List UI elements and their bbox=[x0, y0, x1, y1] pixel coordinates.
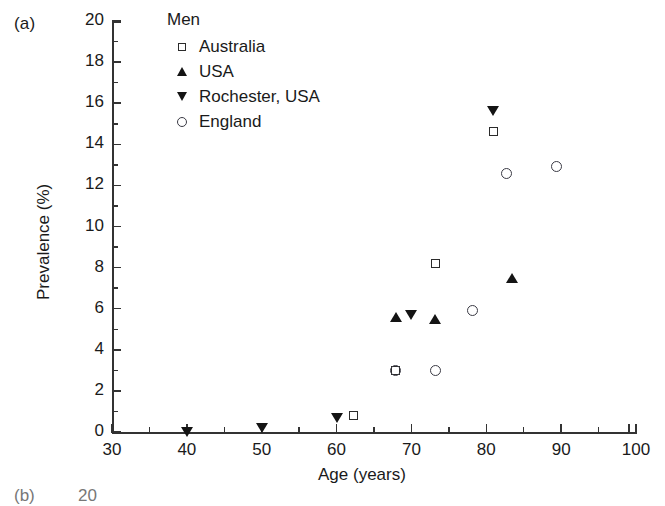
y-tick-minor bbox=[112, 82, 118, 84]
data-point-england bbox=[430, 365, 441, 376]
legend: Men AustraliaUSARochester, USAEngland bbox=[165, 10, 320, 134]
x-tick-major bbox=[486, 424, 488, 433]
x-tick-label: 60 bbox=[312, 440, 362, 460]
x-tick-major bbox=[635, 424, 637, 433]
data-point-rochester-usa bbox=[331, 413, 343, 423]
triangle-up-filled-icon bbox=[177, 67, 187, 76]
data-point-rochester-usa bbox=[181, 427, 193, 437]
x-tick-minor bbox=[523, 427, 525, 433]
legend-item: Rochester, USA bbox=[165, 84, 320, 109]
x-tick-label: 70 bbox=[386, 440, 436, 460]
y-tick-major bbox=[112, 185, 121, 187]
data-point-rochester-usa bbox=[256, 423, 268, 433]
square-open-icon bbox=[178, 43, 186, 51]
y-tick-label: 8 bbox=[64, 257, 104, 277]
panel-label: (a) bbox=[14, 14, 35, 34]
legend-marker-square-open-icon bbox=[165, 43, 199, 51]
x-axis-right-cap bbox=[628, 424, 630, 433]
y-tick-major bbox=[112, 20, 121, 22]
legend-item-label: Rochester, USA bbox=[199, 87, 320, 107]
y-tick-minor bbox=[112, 411, 118, 413]
data-point-rochester-usa bbox=[405, 310, 417, 320]
y-tick-minor bbox=[112, 205, 118, 207]
x-tick-minor bbox=[149, 427, 151, 433]
x-tick-minor bbox=[373, 427, 375, 433]
circle-open-icon bbox=[177, 117, 187, 127]
legend-marker-triangle-up-filled-icon bbox=[165, 67, 199, 76]
x-tick-minor bbox=[598, 427, 600, 433]
y-tick-major bbox=[112, 267, 121, 269]
y-tick-minor bbox=[112, 370, 118, 372]
y-tick-major bbox=[112, 390, 121, 392]
x-tick-label: 30 bbox=[87, 440, 137, 460]
x-tick-major bbox=[111, 424, 113, 433]
data-point-england bbox=[390, 365, 401, 376]
y-axis-title: Prevalence (%) bbox=[34, 184, 54, 300]
x-tick-label: 40 bbox=[162, 440, 212, 460]
data-point-australia bbox=[431, 259, 440, 268]
data-point-usa bbox=[506, 273, 518, 283]
legend-item: Australia bbox=[165, 34, 320, 59]
y-tick-minor bbox=[112, 329, 118, 331]
data-point-rochester-usa bbox=[487, 106, 499, 116]
legend-item: USA bbox=[165, 59, 320, 84]
data-point-australia bbox=[349, 411, 358, 420]
y-tick-minor bbox=[112, 164, 118, 166]
y-tick-label: 10 bbox=[64, 216, 104, 236]
y-tick-label: 6 bbox=[64, 298, 104, 318]
legend-marker-circle-open-icon bbox=[165, 117, 199, 127]
x-tick-label: 50 bbox=[237, 440, 287, 460]
y-tick-major bbox=[112, 61, 121, 63]
legend-item-label: England bbox=[199, 112, 261, 132]
y-tick-label: 16 bbox=[64, 92, 104, 112]
data-point-england bbox=[467, 305, 478, 316]
x-axis-title: Age (years) bbox=[318, 465, 406, 485]
y-tick-major bbox=[112, 431, 121, 433]
x-tick-minor bbox=[298, 427, 300, 433]
data-point-england bbox=[501, 168, 512, 179]
data-point-australia bbox=[489, 127, 498, 136]
y-tick-label: 20 bbox=[64, 10, 104, 30]
legend-item-label: USA bbox=[199, 62, 234, 82]
data-point-usa bbox=[429, 314, 441, 324]
y-tick-minor bbox=[112, 41, 118, 43]
legend-marker-triangle-down-filled-icon bbox=[165, 92, 199, 101]
y-tick-label: 2 bbox=[64, 380, 104, 400]
y-tick-major bbox=[112, 226, 121, 228]
legend-title: Men bbox=[167, 10, 320, 30]
y-tick-label: 4 bbox=[64, 339, 104, 359]
y-tick-minor bbox=[112, 246, 118, 248]
y-tick-minor bbox=[112, 287, 118, 289]
data-point-usa bbox=[390, 312, 402, 322]
legend-item: England bbox=[165, 109, 320, 134]
y-tick-label: 12 bbox=[64, 174, 104, 194]
x-tick-label: 90 bbox=[536, 440, 586, 460]
x-tick-major bbox=[560, 424, 562, 433]
y-tick-label: 14 bbox=[64, 133, 104, 153]
x-tick-major bbox=[411, 424, 413, 433]
x-tick-label: 80 bbox=[461, 440, 511, 460]
y-tick-major bbox=[112, 102, 121, 104]
x-tick-major bbox=[336, 424, 338, 433]
x-tick-minor bbox=[448, 427, 450, 433]
y-tick-major bbox=[112, 349, 121, 351]
x-tick-label: 100 bbox=[611, 440, 661, 460]
y-tick-major bbox=[112, 144, 121, 146]
y-tick-label: 18 bbox=[64, 51, 104, 71]
y-tick-label: 0 bbox=[64, 421, 104, 441]
data-point-england bbox=[551, 161, 562, 172]
triangle-down-filled-icon bbox=[177, 92, 187, 101]
x-tick-minor bbox=[224, 427, 226, 433]
y-tick-major bbox=[112, 308, 121, 310]
y-tick-minor bbox=[112, 123, 118, 125]
legend-item-label: Australia bbox=[199, 37, 265, 57]
next-panel-label: (b) bbox=[14, 486, 35, 506]
next-panel-first-tick: 20 bbox=[78, 486, 97, 506]
